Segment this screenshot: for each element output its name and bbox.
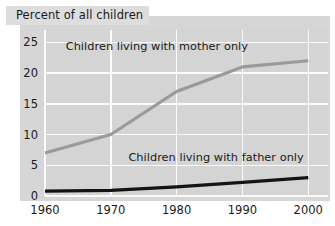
plot-area: 0510152025 19601970198019902000 Children… (45, 30, 328, 196)
x-axis-tick-label: 1970 (96, 203, 125, 217)
series-line (45, 178, 308, 192)
x-axis-tick-label: 1980 (162, 203, 191, 217)
series-lines (45, 30, 328, 196)
series-label: Children living with father only (128, 151, 303, 164)
y-axis-tick-label: 15 (23, 97, 38, 111)
page-title: Percent of all children (16, 8, 143, 22)
chart-title-banner: Percent of all children (6, 6, 149, 25)
y-axis-tick-label: 20 (23, 66, 38, 80)
y-axis-tick-label: 5 (31, 158, 38, 172)
x-axis-tick-label: 2000 (294, 203, 323, 217)
series-label: Children living with mother only (66, 40, 248, 53)
y-axis-tick-label: 0 (31, 189, 38, 203)
y-axis-tick-label: 25 (23, 35, 38, 49)
x-axis-tick-label: 1990 (228, 203, 257, 217)
figure: Percent of all children 0510152025 19601… (0, 0, 335, 226)
x-axis-tick-label: 1960 (30, 203, 59, 217)
y-axis-tick-label: 10 (23, 128, 38, 142)
series-line (45, 61, 308, 153)
